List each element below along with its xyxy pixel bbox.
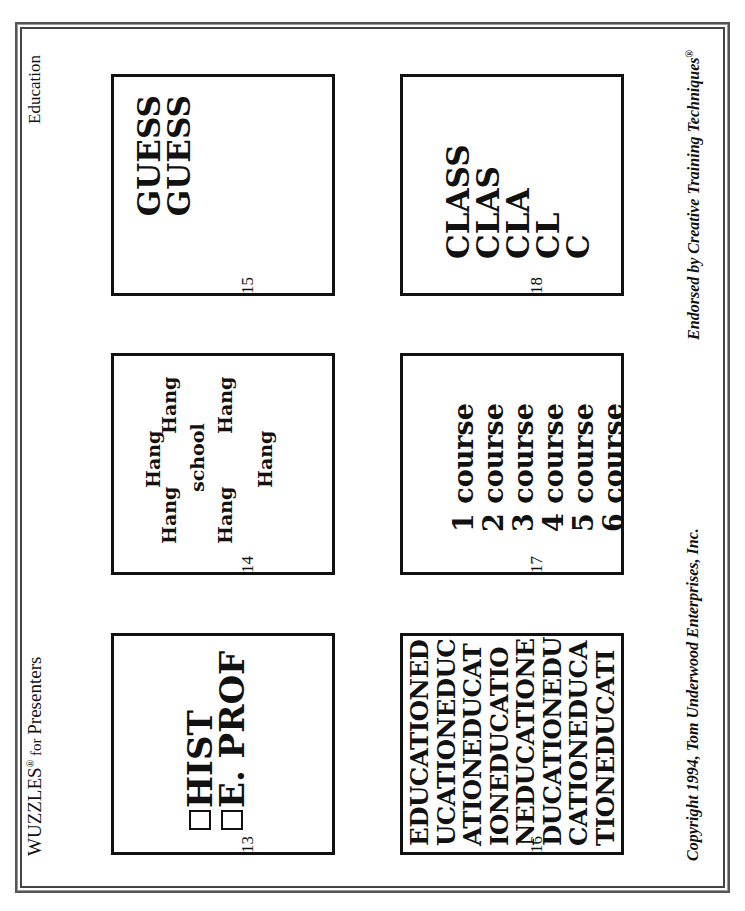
puzzle-14-center-word: school [186, 423, 208, 492]
puzzle-14-word: Hang [158, 487, 180, 544]
puzzle-14-word: Hang [254, 431, 276, 488]
puzzle-14-word: Hang [142, 431, 164, 488]
registered-mark: ® [684, 50, 695, 57]
puzzle-box-15: GUESS GUESS [111, 74, 335, 296]
checkbox-square-icon [221, 810, 243, 830]
puzzle-13-line: E. PROF [216, 651, 248, 830]
checkbox-square-icon [189, 810, 211, 830]
puzzle-page: WUZZLES® for Presenters Education 13 HIS… [0, 0, 745, 911]
puzzle-15-content: GUESS GUESS [134, 95, 194, 216]
puzzle-14-word: Hang [214, 377, 236, 434]
puzzle-14-word: Hang [158, 377, 180, 434]
puzzle-14-word: Hang [214, 487, 236, 544]
puzzle-16-content: EDUCATIONED UCATIONEDUC ATIONEDUCAT IONE… [407, 637, 619, 846]
puzzle-13-content: HIST E. PROF [184, 651, 248, 830]
page-title: WUZZLES® for Presenters [24, 657, 46, 856]
category-label: Education [25, 55, 45, 124]
puzzle-box-16: EDUCATIONED UCATIONEDUC ATIONEDUCAT IONE… [400, 633, 624, 855]
puzzle-17-content: 1 course 2 course 3 course 4 course 5 co… [449, 403, 624, 532]
puzzle-18-content: CLASS CLAS CLA CL C [443, 144, 593, 259]
title-rest: Presenters [24, 657, 45, 735]
endorsement-notice: Endorsed by Creative Training Techniques… [684, 50, 703, 340]
puzzle-box-13: HIST E. PROF [111, 633, 335, 855]
title-for: for [28, 735, 44, 760]
title-main: WUZZLES [24, 767, 45, 856]
copyright-notice: Copyright 1994, Tom Underwood Enterprise… [684, 528, 702, 861]
puzzle-box-17: 1 course 2 course 3 course 4 course 5 co… [400, 353, 624, 575]
puzzle-box-14: Hang Hang Hang school Hang Hang Hang [111, 353, 335, 575]
registered-mark: ® [25, 760, 36, 768]
puzzle-box-18: CLASS CLAS CLA CL C [400, 74, 624, 296]
